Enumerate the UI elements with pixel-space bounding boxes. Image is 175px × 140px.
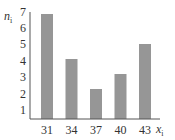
bar-31 <box>41 14 53 119</box>
y-tick-label: 6 <box>20 21 26 35</box>
bar-34 <box>66 59 78 119</box>
x-tick-label: 40 <box>115 123 127 137</box>
y-tick-label: 5 <box>20 37 26 51</box>
bar-chart: 1234567 3134374043 ni xi <box>0 0 175 140</box>
x-ticks: 3134374043 <box>41 123 151 137</box>
y-tick-label: 1 <box>20 103 26 117</box>
x-tick-label: 43 <box>139 123 151 137</box>
bar-37 <box>90 89 102 119</box>
y-tick-label: 3 <box>20 70 26 84</box>
x-axis-label: xi <box>155 122 164 138</box>
y-ticks: 1234567 <box>20 5 26 117</box>
x-tick-label: 34 <box>66 123 78 137</box>
y-tick-label: 4 <box>20 54 26 68</box>
y-axis-label: ni <box>4 9 13 25</box>
x-tick-label: 31 <box>41 123 53 137</box>
bar-40 <box>115 74 127 119</box>
y-tick-label: 2 <box>20 87 26 101</box>
x-tick-label: 37 <box>90 123 102 137</box>
y-tick-label: 7 <box>20 5 26 19</box>
bars-group <box>41 14 151 119</box>
bar-43 <box>139 44 151 119</box>
